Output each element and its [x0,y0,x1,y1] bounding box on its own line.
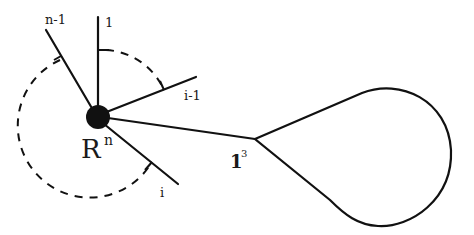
spoke-i-edge [104,124,178,184]
spoke-n-1-tick [54,56,61,60]
label-i: i [160,185,164,200]
label-n-1: n-1 [45,12,66,27]
dashed-arc-1-to-i-1 [106,50,162,86]
center-node-superscript: n [104,132,113,148]
label-1: 1 [105,15,113,30]
spoke-i-1-edge [104,77,196,113]
spoke-n-1-edge [46,30,93,110]
graph-diagram: n-1 1 i-1 i R n 1 3 [0,0,474,235]
center-node-label: R [81,134,102,164]
bridge-edge [108,118,255,139]
spoke-i-1-tick [160,81,164,90]
label-i-1: i-1 [184,88,201,103]
loop-edge [255,88,451,226]
dashed-arc-n-1-to-i [18,60,150,198]
center-node-dot [86,105,110,129]
junction-superscript: 3 [241,148,247,159]
